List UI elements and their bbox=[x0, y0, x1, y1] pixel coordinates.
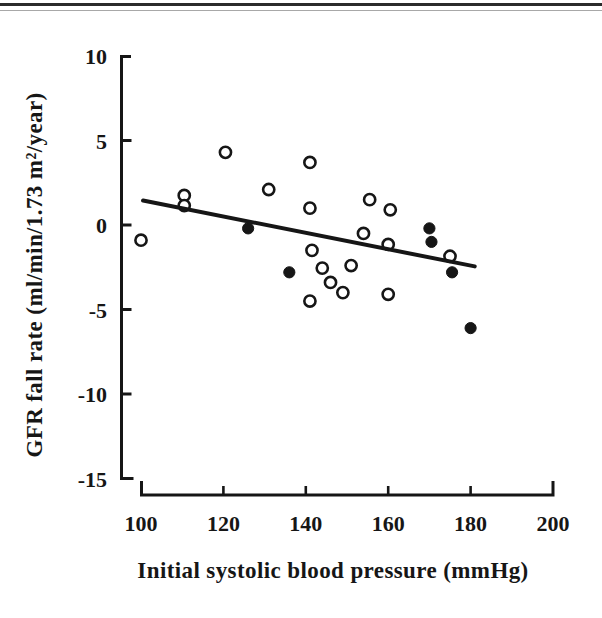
data-point-open bbox=[385, 204, 396, 215]
y-tick-label: -15 bbox=[78, 467, 107, 492]
x-tick-label: 180 bbox=[454, 511, 487, 536]
scatter-chart: 1050-5-10-15100120140160180200 bbox=[0, 0, 602, 618]
data-point-open bbox=[304, 295, 315, 306]
x-tick-label: 120 bbox=[207, 511, 240, 536]
y-axis-title: GFR fall rate (ml/min/1.73 m²/year) bbox=[22, 92, 48, 457]
x-axis-title: Initial systolic blood pressure (mmHg) bbox=[137, 558, 528, 584]
data-point-open bbox=[358, 228, 369, 239]
data-point-filled bbox=[243, 223, 254, 234]
data-point-open bbox=[304, 203, 315, 214]
x-tick-label: 100 bbox=[125, 511, 158, 536]
data-point-filled bbox=[426, 236, 437, 247]
data-point-open bbox=[325, 277, 336, 288]
data-point-open bbox=[220, 147, 231, 158]
x-tick-label: 140 bbox=[289, 511, 322, 536]
data-point-open bbox=[317, 262, 328, 273]
data-point-filled bbox=[424, 223, 435, 234]
data-point-open bbox=[346, 260, 357, 271]
data-point-open bbox=[306, 245, 317, 256]
y-tick-label: 5 bbox=[96, 129, 107, 154]
data-point-open bbox=[337, 287, 348, 298]
y-tick-label: -10 bbox=[78, 382, 107, 407]
data-point-filled bbox=[284, 267, 295, 278]
x-axis bbox=[142, 481, 554, 495]
data-point-filled bbox=[446, 267, 457, 278]
x-tick-label: 160 bbox=[372, 511, 405, 536]
y-tick-label: -5 bbox=[89, 298, 107, 323]
data-point-open bbox=[135, 235, 146, 246]
data-point-open bbox=[383, 289, 394, 300]
data-point-filled bbox=[465, 322, 476, 333]
data-point-open bbox=[364, 194, 375, 205]
x-tick-label: 200 bbox=[537, 511, 570, 536]
data-point-open bbox=[304, 157, 315, 168]
y-axis bbox=[122, 57, 134, 479]
data-point-open bbox=[263, 184, 274, 195]
y-tick-label: 10 bbox=[85, 44, 107, 69]
figure-page: 1050-5-10-15100120140160180200 GFR fall … bbox=[0, 0, 602, 618]
y-tick-label: 0 bbox=[96, 213, 107, 238]
